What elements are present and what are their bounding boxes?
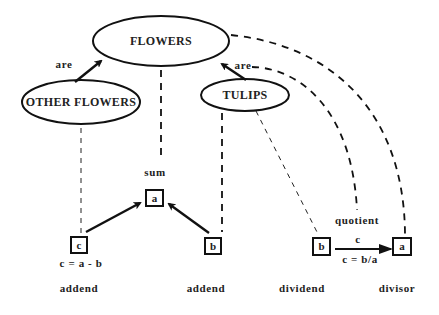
role-dividend: dividend [279, 282, 325, 294]
role-addend-left: addend [60, 282, 98, 294]
other-are-arrow [75, 61, 101, 82]
other-flowers-label: OTHER FLOWERS [26, 95, 136, 109]
addend-c-box-label: c [77, 239, 82, 251]
dividend-box-label: b [318, 240, 324, 252]
tulips-to-dividend-line [256, 111, 318, 234]
divisor-box-label: a [399, 240, 405, 252]
sum-label: sum [144, 166, 165, 178]
quotient-arrow-var: c [355, 233, 360, 245]
b-to-a-arrow [169, 204, 209, 233]
other-are-label: are [56, 58, 73, 70]
role-addend-right: addend [187, 282, 225, 294]
division-formula: c = b/a [342, 253, 378, 265]
tulips-label: TULIPS [222, 88, 267, 102]
concept-diagram: FLOWERS OTHER FLOWERS TULIPS are are sum… [0, 0, 439, 315]
flowers-label: FLOWERS [130, 34, 192, 48]
quotient-label: quotient [335, 214, 379, 226]
role-divisor: divisor [379, 282, 416, 294]
node-other-flowers: OTHER FLOWERS [22, 80, 140, 124]
tulips-to-quotient-curve [252, 67, 357, 210]
node-tulips: TULIPS [201, 79, 289, 111]
subtraction-formula: c = a - b [60, 257, 103, 269]
addend-b-box-label: b [210, 240, 216, 252]
node-flowers: FLOWERS [93, 16, 229, 66]
c-to-a-arrow [86, 203, 140, 232]
sum-box-label: a [152, 192, 158, 204]
flowers-to-divisor-curve [231, 35, 405, 234]
tulips-are-label: are [235, 59, 252, 71]
